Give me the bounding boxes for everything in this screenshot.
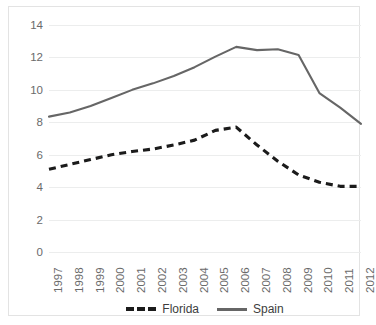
x-tick-label: 2002: [157, 267, 168, 293]
y-tick-label: 10: [17, 84, 43, 95]
x-tick-label: 2010: [323, 267, 334, 293]
y-axis: 14121086420: [13, 25, 43, 252]
x-tick-label: 1999: [95, 267, 106, 293]
x-tick-label: 1998: [74, 267, 85, 293]
x-tick-label: 2012: [365, 267, 376, 293]
series-layer: [49, 25, 361, 252]
gridline: [49, 252, 361, 253]
plot-area: [49, 25, 361, 252]
x-tick-label: 2004: [199, 267, 210, 293]
x-tick-label: 2005: [219, 267, 230, 293]
y-tick-label: 2: [17, 214, 43, 225]
series-line-spain: [49, 47, 361, 124]
x-tick-label: 2001: [136, 267, 147, 293]
y-tick-label: 12: [17, 52, 43, 63]
y-tick-label: 4: [17, 182, 43, 193]
legend-entry[interactable]: Florida: [126, 303, 199, 315]
x-axis: 1997199819992000200120022003200420052006…: [49, 255, 361, 297]
legend-label: Spain: [253, 303, 284, 315]
series-line-florida: [49, 127, 361, 186]
x-tick-label: 2007: [261, 267, 272, 293]
x-tick-label: 2006: [240, 267, 251, 293]
y-tick-label: 0: [17, 247, 43, 258]
legend-label: Florida: [162, 303, 199, 315]
x-tick-label: 2008: [282, 267, 293, 293]
y-tick-label: 8: [17, 117, 43, 128]
legend-swatch-icon: [217, 308, 247, 311]
chart-frame: 14121086420 1997199819992000200120022003…: [8, 6, 360, 316]
y-tick-label: 14: [17, 20, 43, 31]
chart-legend: FloridaSpain: [49, 299, 361, 319]
y-tick-label: 6: [17, 149, 43, 160]
x-tick-label: 2009: [303, 267, 314, 293]
x-tick-label: 2003: [178, 267, 189, 293]
legend-entry[interactable]: Spain: [217, 303, 284, 315]
x-tick-label: 1997: [53, 267, 64, 293]
legend-swatch-icon: [126, 307, 156, 311]
x-tick-label: 2011: [344, 268, 355, 293]
x-tick-label: 2000: [115, 267, 126, 293]
